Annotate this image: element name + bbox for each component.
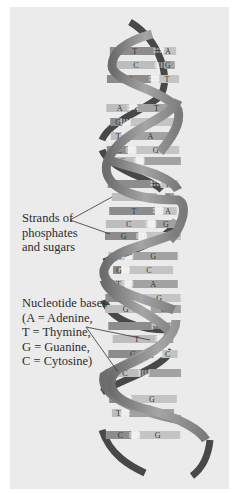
- base-right: [144, 157, 181, 165]
- base-label-right: G: [150, 252, 156, 261]
- base-label-right: G: [153, 146, 159, 155]
- annotation-strands-line-1: Strands of: [22, 211, 78, 226]
- base-label-left: G: [121, 232, 127, 241]
- base-label-left: A: [117, 104, 123, 113]
- base-label-right: G: [165, 61, 171, 70]
- annotation-strands-line-2: phosphates: [22, 226, 78, 241]
- base-label-right: T: [164, 75, 169, 84]
- base-label-right: G: [155, 431, 161, 440]
- base-label-right: C: [146, 266, 151, 275]
- base-left: [108, 322, 153, 330]
- base-right: [149, 369, 181, 377]
- base-label-right: C: [165, 350, 170, 359]
- base-label-left: T: [132, 207, 137, 216]
- base-label-left: G: [116, 266, 122, 275]
- base-label-left: T: [132, 47, 137, 56]
- annotation-bases-line-1: Nucleotide bases: [22, 296, 107, 311]
- annotation-bases-line-2: (A = Adenine,: [22, 311, 107, 326]
- base-pair: CG: [106, 431, 180, 440]
- base-label-left: G: [115, 118, 121, 127]
- base-label-right: A: [147, 132, 153, 141]
- base-label-right: A: [150, 280, 156, 289]
- base-label-left: T: [116, 409, 121, 418]
- base-label-right: T: [154, 104, 159, 113]
- base-pair: CG: [106, 220, 180, 229]
- annotation-bases-line-5: C = Cytosine): [22, 354, 107, 369]
- annotation-bases-line-4: G = Guanine,: [22, 340, 107, 355]
- base-label-right: A: [165, 47, 171, 56]
- annotation-bases: Nucleotide bases (A = Adenine, T = Thymi…: [22, 296, 107, 369]
- base-label-left: C: [133, 61, 138, 70]
- annotation-bases-line-3: T = Thymine,: [22, 325, 107, 340]
- base-label-right: G: [149, 395, 155, 404]
- base-label-right: A: [165, 207, 171, 216]
- base-pair: GC: [113, 266, 173, 275]
- base-label-left: C: [126, 220, 131, 229]
- base-label-left: C: [118, 431, 123, 440]
- base-label-left: T: [134, 335, 139, 344]
- base-label-right: G: [163, 220, 169, 229]
- base-pair: CG: [111, 61, 175, 70]
- annotation-strands: Strands of phosphates and sugars: [22, 211, 78, 255]
- base-pair: TA: [109, 207, 177, 216]
- annotation-strands-line-3: and sugars: [22, 240, 78, 255]
